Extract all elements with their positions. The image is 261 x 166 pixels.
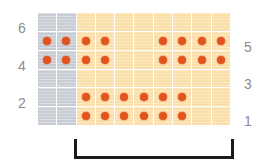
- grid-dot: [178, 93, 186, 101]
- grid-cell: [192, 13, 211, 32]
- right-axis-tick-3: 3: [238, 77, 258, 91]
- grid-cell: [173, 107, 192, 126]
- grid-dot: [178, 37, 186, 45]
- grid-cell: [212, 32, 231, 51]
- dot-grid: [38, 13, 231, 126]
- grid-cell: [57, 107, 76, 126]
- grid-dot: [217, 56, 225, 64]
- grid-dot: [62, 56, 70, 64]
- grid-cell: [134, 32, 153, 51]
- grid-cell: [134, 88, 153, 107]
- grid-cell: [173, 88, 192, 107]
- grid-cell: [96, 70, 115, 89]
- grid-cell: [57, 70, 76, 89]
- grid-cell: [57, 13, 76, 32]
- grid-cell: [212, 107, 231, 126]
- grid-cell: [173, 70, 192, 89]
- grid-cell: [77, 51, 96, 70]
- right-axis-tick-1: 1: [238, 114, 258, 128]
- grid-cell: [154, 88, 173, 107]
- grid-cell: [38, 13, 57, 32]
- grid-cell: [57, 32, 76, 51]
- grid-cell: [38, 32, 57, 51]
- grid-dot: [120, 112, 128, 120]
- grid-cell: [154, 51, 173, 70]
- right-axis-tick-5: 5: [238, 40, 258, 54]
- grid-dot: [217, 37, 225, 45]
- grid-cell: [115, 51, 134, 70]
- grid-cell: [154, 13, 173, 32]
- grid-cell: [134, 51, 153, 70]
- grid-cell: [192, 88, 211, 107]
- grid-dot: [140, 93, 148, 101]
- grid-cell: [38, 107, 57, 126]
- grid-dot: [159, 93, 167, 101]
- grid-cell: [96, 13, 115, 32]
- dot-grid-figure: 6 4 2 5 3 1: [0, 0, 261, 166]
- grid-cell: [212, 70, 231, 89]
- grid-cell: [154, 32, 173, 51]
- bottom-bracket: [74, 135, 234, 159]
- grid-dot: [159, 37, 167, 45]
- grid-cell: [173, 13, 192, 32]
- grid-dot: [82, 56, 90, 64]
- grid-cell: [134, 70, 153, 89]
- left-axis-tick-4: 4: [12, 59, 32, 73]
- grid-cell: [154, 70, 173, 89]
- grid-cell: [77, 70, 96, 89]
- grid-cell: [77, 88, 96, 107]
- grid-dot: [178, 112, 186, 120]
- grid-dot: [62, 37, 70, 45]
- grid-cell: [96, 107, 115, 126]
- grid-dot: [82, 93, 90, 101]
- grid-cell: [57, 51, 76, 70]
- grid-dot: [198, 37, 206, 45]
- grid-dot: [82, 37, 90, 45]
- grid-dot: [82, 112, 90, 120]
- grid-dot: [101, 37, 109, 45]
- bracket-bar: [74, 156, 234, 159]
- grid-dot: [101, 56, 109, 64]
- grid-dot: [159, 56, 167, 64]
- grid-cell: [212, 88, 231, 107]
- grid-cell: [173, 32, 192, 51]
- grid-dot: [101, 93, 109, 101]
- grid-cell: [38, 51, 57, 70]
- grid-cell: [77, 13, 96, 32]
- grid-cell: [192, 32, 211, 51]
- grid-cell: [115, 13, 134, 32]
- grid-cell: [38, 88, 57, 107]
- grid-dot: [101, 112, 109, 120]
- grid-dot: [159, 112, 167, 120]
- grid-cell: [96, 88, 115, 107]
- grid-cell: [154, 107, 173, 126]
- grid-cell: [115, 32, 134, 51]
- grid-dot: [198, 56, 206, 64]
- grid-dot: [43, 56, 51, 64]
- grid-cell: [57, 88, 76, 107]
- grid-cell: [77, 107, 96, 126]
- grid-cell: [38, 70, 57, 89]
- grid-cell: [212, 51, 231, 70]
- grid-cell: [192, 51, 211, 70]
- grid-cell: [96, 32, 115, 51]
- grid-cell: [115, 107, 134, 126]
- grid-cell: [134, 107, 153, 126]
- grid-cell: [173, 51, 192, 70]
- grid-dot: [178, 56, 186, 64]
- grid-cell: [134, 13, 153, 32]
- grid-dot: [120, 93, 128, 101]
- grid-dot: [140, 112, 148, 120]
- grid-cell: [192, 70, 211, 89]
- grid-cell: [77, 32, 96, 51]
- left-axis-tick-2: 2: [12, 96, 32, 110]
- grid-dot: [43, 37, 51, 45]
- grid-cell: [192, 107, 211, 126]
- grid-cell: [115, 88, 134, 107]
- grid-cell: [96, 51, 115, 70]
- grid-cell: [115, 70, 134, 89]
- left-axis-tick-6: 6: [12, 21, 32, 35]
- bracket-right-arm: [231, 139, 234, 159]
- grid-cell: [212, 13, 231, 32]
